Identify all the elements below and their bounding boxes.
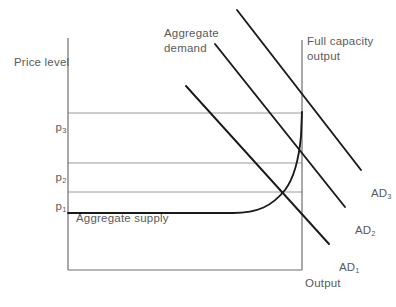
aggregate-demand-curve-ad1 — [186, 86, 329, 244]
y-axis-label: Price level — [14, 55, 69, 69]
price-level-p2-sub: 2 — [62, 176, 66, 185]
curve-label-ad3-base: AD — [371, 187, 387, 199]
full-capacity-output-label-line1: Full capacity — [307, 34, 374, 49]
aggregate-supply-label: Aggregate supply — [76, 211, 169, 225]
price-level-label-p1: p1 — [42, 185, 64, 229]
curve-label-ad1-sub: 1 — [355, 266, 359, 275]
diagram-canvas: Price level Output Aggregate demand Full… — [0, 0, 396, 307]
curve-label-ad2-base: AD — [355, 224, 371, 236]
price-level-label-p3: p3 — [42, 106, 64, 150]
aggregate-demand-label-line1: Aggregate — [164, 26, 219, 41]
curve-label-ad2-sub: 2 — [371, 229, 375, 238]
full-capacity-output-label-line2: output — [307, 49, 340, 64]
aggregate-demand-label-line2: demand — [164, 41, 207, 56]
price-level-p1-sub: 1 — [62, 205, 66, 214]
curve-label-ad1: AD1 — [326, 246, 360, 290]
curve-label-ad3-sub: 3 — [387, 192, 391, 201]
price-level-p3-sub: 3 — [62, 126, 66, 135]
curve-label-ad1-base: AD — [339, 261, 355, 273]
